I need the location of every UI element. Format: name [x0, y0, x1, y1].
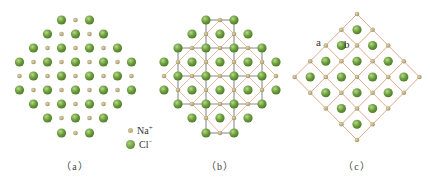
caption-a: （a） — [61, 158, 88, 173]
na-ion — [417, 75, 422, 80]
cl-ion — [159, 57, 168, 66]
na-ion — [129, 74, 134, 79]
cl-ion — [257, 43, 266, 52]
na-ion — [45, 46, 50, 51]
cl-ion — [399, 72, 408, 81]
na-ion — [339, 27, 344, 32]
na-ion — [218, 102, 223, 107]
cl-ion — [352, 120, 361, 129]
na-ion — [324, 43, 329, 48]
na-ion — [260, 88, 265, 93]
cl-ion — [57, 71, 66, 80]
legend-na: Na+ — [128, 124, 153, 136]
na-ion — [31, 60, 36, 65]
cl-ion — [99, 85, 108, 94]
na-ion — [292, 75, 297, 80]
cl-ion — [271, 85, 280, 94]
na-ion — [73, 18, 78, 23]
panel-a-ion-layer — [15, 15, 136, 137]
cl-ion — [71, 57, 80, 66]
na-ion — [73, 131, 78, 136]
cl-ion — [243, 85, 252, 94]
cl-ion — [201, 99, 210, 108]
cl-ion — [113, 99, 122, 108]
cl-ion — [229, 128, 238, 137]
na-ion — [176, 88, 181, 93]
cl-ion — [368, 72, 377, 81]
na-ion — [204, 88, 209, 93]
na-ion — [246, 74, 251, 79]
na-ion — [308, 59, 313, 64]
na-ion — [31, 88, 36, 93]
caption-c: （c） — [343, 158, 370, 173]
cl-ion — [99, 29, 108, 38]
cl-ion — [15, 85, 24, 94]
panel-c-ion-lattice — [292, 12, 421, 143]
na-ion — [355, 12, 360, 17]
na-ion — [204, 32, 209, 37]
na-ion — [73, 102, 78, 107]
cl-ion — [173, 71, 182, 80]
lattice-diagram — [0, 0, 430, 180]
cl-ion — [43, 113, 52, 122]
na-ion — [232, 88, 237, 93]
cl-ion — [352, 88, 361, 97]
legend-cl-label: Cl− — [139, 138, 152, 150]
na-ion — [45, 102, 50, 107]
na-ion — [59, 116, 64, 121]
na-ion — [260, 60, 265, 65]
na-ion — [355, 138, 360, 143]
cl-ion — [57, 43, 66, 52]
cl-ion — [71, 85, 80, 94]
cl-ion — [201, 71, 210, 80]
cl-ion — [215, 29, 224, 38]
na-ion — [73, 46, 78, 51]
na-ion — [246, 46, 251, 51]
cl-ion — [257, 71, 266, 80]
cl-ion — [57, 15, 66, 24]
cl-ion — [187, 85, 196, 94]
cl-ion — [71, 29, 80, 38]
cl-ion — [127, 85, 136, 94]
cl-ion — [243, 113, 252, 122]
na-ion — [162, 74, 167, 79]
cl-ion — [229, 99, 238, 108]
na-ion — [218, 131, 223, 136]
na-ion — [45, 74, 50, 79]
na-ion — [59, 32, 64, 37]
cl-ion — [29, 43, 38, 52]
na-ion — [370, 122, 375, 127]
cl-ion — [201, 128, 210, 137]
na-ion-icon — [128, 128, 133, 133]
cl-ion — [85, 99, 94, 108]
na-ion — [204, 60, 209, 65]
na-ion — [339, 90, 344, 95]
cl-ion — [215, 85, 224, 94]
na-ion — [232, 32, 237, 37]
cl-ion — [57, 99, 66, 108]
annotation-b: b — [344, 39, 350, 50]
cl-ion — [173, 99, 182, 108]
na-ion — [87, 32, 92, 37]
cl-ion — [321, 88, 330, 97]
na-ion — [115, 88, 120, 93]
na-ion — [246, 102, 251, 107]
legend-na-label: Na+ — [137, 124, 153, 136]
cl-ion — [173, 43, 182, 52]
na-ion — [218, 74, 223, 79]
cl-ion — [352, 57, 361, 66]
cl-ion — [15, 57, 24, 66]
cl-ion — [368, 41, 377, 50]
na-ion — [59, 60, 64, 65]
cl-ion — [321, 57, 330, 66]
cl-ion — [187, 113, 196, 122]
na-ion — [176, 60, 181, 65]
cl-ion — [187, 29, 196, 38]
nacl-crystal-figure: Na+ Cl− a b （a） （b） （c） — [0, 0, 430, 180]
na-ion — [370, 27, 375, 32]
na-ion — [232, 116, 237, 121]
na-ion — [190, 102, 195, 107]
cl-ion — [99, 113, 108, 122]
panel-b-ion-layer — [159, 15, 280, 137]
na-ion — [339, 122, 344, 127]
